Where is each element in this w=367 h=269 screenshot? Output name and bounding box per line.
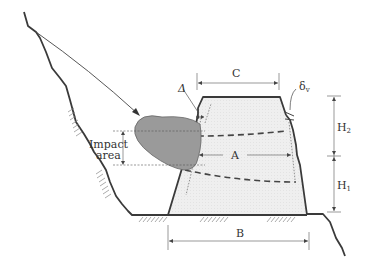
rockfall-trajectory-arrow [36,32,140,116]
embankment-diagram: Impact area Δ C δv H2 H1 [0,0,367,269]
ground-hatch-upper [68,108,82,136]
ground-hatch-base-right [267,217,295,222]
h2-label: H2 [337,121,351,135]
b-label: B [236,227,244,240]
delta-label: Δ [177,82,186,95]
impact-area-blob [135,116,202,170]
height-dimension [327,96,341,212]
delta-v-label: δv [299,80,310,94]
h1-label: H1 [337,179,351,193]
impact-area-label-line2: area [96,149,121,162]
ground-hatch-lower [96,170,111,198]
ground-hatch-base-middle [200,217,228,222]
a-label: A [230,149,240,162]
ground-hatch-base-left [139,217,167,222]
c-label: C [232,67,240,80]
